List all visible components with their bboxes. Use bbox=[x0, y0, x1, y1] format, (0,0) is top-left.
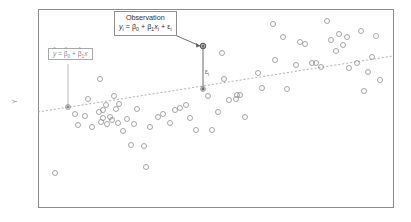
scatter-point bbox=[298, 40, 303, 45]
eq-epsilon-sub: i bbox=[170, 27, 171, 33]
scatter-point bbox=[206, 94, 211, 99]
scatter-point bbox=[121, 129, 126, 134]
scatter-point bbox=[132, 122, 137, 127]
fit-eq-x: x bbox=[84, 50, 87, 57]
scatter-point bbox=[101, 108, 106, 113]
scatter-point bbox=[188, 116, 193, 121]
scatter-point bbox=[260, 86, 265, 91]
scatter-point bbox=[53, 171, 58, 176]
scatter-point bbox=[256, 71, 261, 76]
scatter-point bbox=[378, 78, 383, 83]
scatter-point bbox=[156, 115, 161, 120]
scatter-point bbox=[325, 19, 330, 24]
eq-plus-2: + bbox=[159, 22, 167, 31]
fitted-line-equation: ^y = ^β0 + ^β1x bbox=[53, 50, 88, 57]
scatter-point bbox=[86, 97, 91, 102]
scatter-point bbox=[135, 107, 140, 112]
yhat-wrapper: ^y bbox=[53, 50, 56, 57]
scatter-point bbox=[216, 110, 221, 115]
scatter-point bbox=[359, 29, 364, 34]
scatter-point bbox=[112, 94, 117, 99]
fit-eq-equals: = bbox=[56, 50, 64, 57]
fitted-line-annotation-box: ^y = ^β0 + ^β1x bbox=[48, 48, 93, 60]
scatter-point bbox=[101, 116, 106, 121]
beta0-caret: ^ bbox=[64, 47, 68, 53]
plot-frame bbox=[39, 10, 394, 208]
scatter-point bbox=[104, 103, 109, 108]
regression-line bbox=[38, 56, 393, 112]
plot-canvas bbox=[0, 0, 411, 222]
scatter-point bbox=[347, 66, 352, 71]
scatter-point bbox=[303, 42, 308, 47]
scatter-point bbox=[161, 112, 166, 117]
scatter-point bbox=[366, 70, 371, 75]
observation-leader-arrowhead bbox=[196, 43, 200, 48]
scatter-point bbox=[294, 63, 299, 68]
scatter-point bbox=[329, 38, 334, 43]
scatter-point bbox=[173, 108, 178, 113]
scatter-point bbox=[98, 77, 103, 82]
scatter-point bbox=[73, 112, 78, 117]
scatter-point bbox=[220, 51, 225, 56]
scatter-point bbox=[116, 121, 121, 126]
scatter-points bbox=[53, 19, 383, 176]
scatter-point bbox=[370, 55, 375, 60]
scatter-point bbox=[271, 22, 276, 27]
scatter-point bbox=[334, 49, 339, 54]
scatter-point bbox=[194, 128, 199, 133]
scatter-point bbox=[210, 128, 215, 133]
scatter-point bbox=[285, 87, 290, 92]
scatter-point bbox=[238, 93, 243, 98]
scatter-point bbox=[337, 32, 342, 37]
scatter-point bbox=[168, 121, 173, 126]
scatter-point bbox=[184, 103, 189, 108]
scatter-point bbox=[117, 102, 122, 107]
residual-symbol-sub: i bbox=[208, 72, 209, 77]
fitted-line-leader-endpoint bbox=[67, 106, 70, 109]
scatter-point bbox=[362, 89, 367, 94]
eq-plus-1: + bbox=[139, 22, 147, 31]
scatter-point bbox=[227, 98, 232, 103]
scatter-point bbox=[148, 125, 153, 130]
scatter-point bbox=[76, 123, 81, 128]
scatter-point bbox=[341, 43, 346, 48]
scatter-point bbox=[129, 143, 134, 148]
regression-scatter-figure: Y Observation yi = β0 + β1xi + εi ^y = ^… bbox=[0, 0, 411, 222]
scatter-point bbox=[243, 115, 248, 120]
yhat-caret: ^ bbox=[53, 47, 56, 53]
y-axis-label: Y bbox=[11, 92, 18, 112]
eq-equals: = bbox=[124, 22, 132, 31]
scatter-point bbox=[374, 34, 379, 39]
scatter-point bbox=[144, 165, 149, 170]
residual-epsilon-label: εi bbox=[205, 68, 209, 75]
scatter-point bbox=[125, 117, 130, 122]
beta1hat-wrapper: ^β bbox=[78, 50, 82, 57]
beta1-caret: ^ bbox=[78, 47, 82, 53]
scatter-point bbox=[281, 35, 286, 40]
scatter-point bbox=[105, 122, 110, 127]
scatter-point bbox=[90, 125, 95, 130]
observation-annotation-box: Observation yi = β0 + β1xi + εi bbox=[114, 11, 177, 36]
scatter-point bbox=[178, 106, 183, 111]
scatter-point bbox=[355, 61, 360, 66]
beta0hat-wrapper: ^β bbox=[64, 50, 68, 57]
fit-eq-plus: + bbox=[70, 50, 78, 57]
plot-border bbox=[39, 10, 394, 208]
scatter-point bbox=[142, 144, 147, 149]
observation-annotation-title: Observation bbox=[119, 14, 172, 22]
scatter-point bbox=[114, 107, 119, 112]
observation-annotation-equation: yi = β0 + β1xi + εi bbox=[119, 23, 172, 31]
scatter-point bbox=[83, 114, 88, 119]
fitted-regression-line bbox=[38, 56, 393, 112]
residual-foot-marker bbox=[202, 88, 205, 91]
scatter-point bbox=[273, 58, 278, 63]
scatter-point bbox=[222, 77, 227, 82]
residual-head-marker bbox=[202, 45, 205, 48]
scatter-point bbox=[345, 35, 350, 40]
